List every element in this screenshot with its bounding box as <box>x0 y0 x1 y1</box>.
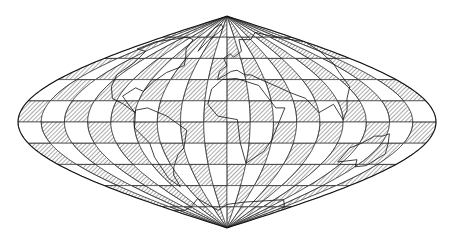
sinusoidal-world-map <box>0 0 454 241</box>
graticule-cells <box>18 16 436 228</box>
